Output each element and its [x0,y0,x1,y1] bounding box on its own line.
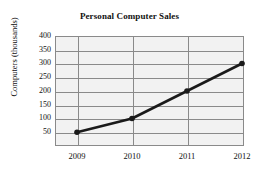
y-tick-300: 300 [21,59,51,67]
y-tick-100: 100 [21,114,51,122]
data-point-2010 [129,116,135,122]
y-tick-250: 250 [21,73,51,81]
y-tick-350: 350 [21,46,51,54]
data-series-layer [55,36,244,146]
data-point-2009 [74,129,80,135]
y-axis-tick-labels: 400 350 300 250 200 150 100 50 [18,36,51,146]
y-tick-150: 150 [21,101,51,109]
x-tick-2011: 2011 [167,151,207,161]
data-point-2012 [239,61,245,67]
chart-title: Personal Computer Sales [0,11,259,21]
data-point-2011 [184,88,190,94]
data-line-personal-computer-sales [77,64,242,133]
x-tick-2009: 2009 [57,151,97,161]
y-tick-400: 400 [21,32,51,40]
y-tick-200: 200 [21,87,51,95]
chart-container: Personal Computer Sales Computers (thous… [0,0,259,179]
y-tick-50: 50 [21,128,51,136]
x-tick-2010: 2010 [112,151,152,161]
x-tick-2012: 2012 [222,151,259,161]
x-axis-tick-labels: 2009 2010 2011 2012 [55,151,244,165]
